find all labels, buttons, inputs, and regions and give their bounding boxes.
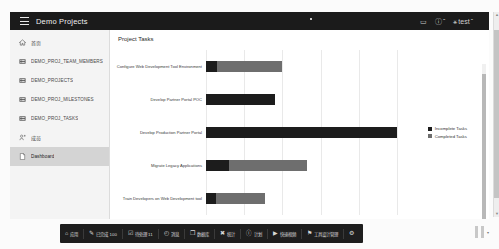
- scroll-down-icon[interactable]: ▼: [494, 211, 499, 217]
- clock-icon: ◴: [164, 231, 169, 237]
- window-scrollbar[interactable]: ▲ ▼: [493, 12, 499, 217]
- chat-icon[interactable]: ▭: [420, 18, 427, 25]
- taskbar-item-label: 统计: [227, 231, 235, 237]
- app-header: Demo Projects ▭ ⓘ ˇ ⚹ test ˇ: [10, 12, 489, 30]
- legend-item-completed[interactable]: Completed Tasks: [428, 134, 467, 139]
- chart-bar-segment-incomplete[interactable]: [206, 94, 275, 105]
- edit-icon: ☑: [128, 231, 133, 237]
- chart-bar-segment-completed[interactable]: [217, 61, 282, 72]
- chart-bar-row: Train Developers on Web Development tool: [206, 182, 397, 215]
- account-label: test: [458, 18, 469, 25]
- taskbar-item-edit[interactable]: ☑待处理 11: [123, 231, 158, 237]
- scroll-up-icon[interactable]: ▲: [494, 12, 499, 18]
- inner-scrollbar-thumb[interactable]: [482, 74, 486, 219]
- sidebar-item-label: DEMO_PROJ_TASKS: [31, 116, 78, 121]
- legend-swatch-icon: [428, 127, 432, 131]
- chart-bar-segment-incomplete[interactable]: [206, 160, 229, 171]
- info-icon: ⓘ: [246, 231, 252, 237]
- people-icon: ✎: [89, 231, 94, 237]
- taskbar-item-gear[interactable]: ⚙: [344, 231, 359, 237]
- sidebar-item-demo-projects[interactable]: DEMO_PROJECTS: [10, 71, 109, 90]
- taskbar-item-info[interactable]: ⓘ计划: [241, 231, 267, 237]
- chart-bar-segment-completed[interactable]: [229, 160, 307, 171]
- sidebar-item-label: 成员: [31, 134, 41, 141]
- gear-icon: ⚙: [349, 231, 354, 237]
- chart-bar[interactable]: [206, 193, 265, 204]
- chart-bar[interactable]: [206, 61, 282, 72]
- screen: Demo Projects ▭ ⓘ ˇ ⚹ test ˇ 首页: [0, 0, 499, 249]
- sidebar-item-dashboard[interactable]: Dashboard: [10, 147, 109, 166]
- hamburger-icon[interactable]: [20, 17, 29, 25]
- video-icon: ▶: [273, 231, 278, 237]
- taskbar-item-people[interactable]: ✎已完成 100: [84, 231, 122, 237]
- chart-category-label: Develop Partner Portal POC: [114, 97, 206, 103]
- legend-swatch-icon: [428, 134, 432, 138]
- chat-glyph: ▭: [420, 18, 427, 25]
- sidebar-item-label: 首页: [31, 39, 41, 46]
- account-icon[interactable]: ⚹ test ˇ: [453, 18, 473, 25]
- table-icon: [18, 77, 26, 85]
- chart-bar-segment-incomplete[interactable]: [206, 127, 397, 138]
- sidebar-item-label: Dashboard: [31, 154, 54, 159]
- chart-bar[interactable]: [206, 127, 397, 138]
- help-glyph: ⓘ: [435, 18, 442, 25]
- chart-bar[interactable]: [206, 160, 307, 171]
- table-icon: [18, 96, 26, 104]
- help-icon[interactable]: ⓘ ˇ: [435, 18, 445, 25]
- chart-bar[interactable]: [206, 94, 275, 105]
- chart-category-label: Configure Web Development Tool Environme…: [114, 64, 206, 70]
- chart-bar-row: Develop Production Partner Portal: [206, 116, 397, 149]
- taskbar-item-label: 快速视频: [280, 231, 296, 237]
- window-scrollbar-thumb[interactable]: [494, 30, 499, 198]
- chart-bar-segment-incomplete[interactable]: [206, 61, 217, 72]
- project-tasks-chart: Configure Web Development Tool Environme…: [110, 48, 475, 219]
- taskbar-item-label: 工具设计管理: [314, 231, 338, 237]
- content-panel: Project Tasks Configure Web Development …: [110, 30, 489, 219]
- home-icon: [18, 39, 26, 47]
- sidebar: 首页 DEMO_PROJ_TEAM_MEMBERS DEMO_PROJECTS …: [10, 30, 110, 219]
- sidebar-item-members[interactable]: 成员: [10, 128, 109, 147]
- sidebar-item-label: DEMO_PROJ_TEAM_MEMBERS: [31, 59, 103, 64]
- chart-category-label: Migrate Legacy Applications: [114, 163, 206, 169]
- sidebar-item-demo-proj-tasks[interactable]: DEMO_PROJ_TASKS: [10, 109, 109, 128]
- taskbar-item-label: 应用: [70, 231, 78, 237]
- tray-expand-icon[interactable]: ▾: [487, 230, 489, 235]
- chart-icon: ✖: [220, 231, 225, 237]
- taskbar-item-pin[interactable]: ⚑工具设计管理: [302, 231, 343, 237]
- pin-icon: ⚑: [307, 231, 312, 237]
- chart-category-label: Train Developers on Web Development tool: [114, 196, 206, 202]
- taskbar-item-clock[interactable]: ◴消息: [159, 231, 184, 237]
- window-body: 首页 DEMO_PROJ_TEAM_MEMBERS DEMO_PROJECTS …: [10, 30, 489, 219]
- chart-bar-segment-incomplete[interactable]: [206, 193, 216, 204]
- sidebar-item-home[interactable]: 首页: [10, 33, 109, 52]
- sidebar-item-label: DEMO_PROJ_MILESTONES: [31, 97, 94, 102]
- sidebar-item-demo-proj-team-members[interactable]: DEMO_PROJ_TEAM_MEMBERS: [10, 52, 109, 71]
- taskbar-item-chart[interactable]: ✖统计: [215, 231, 240, 237]
- window-icon: ❐: [190, 231, 195, 237]
- chart-legend: Incomplete Tasks Completed Tasks: [428, 126, 467, 141]
- taskbar-item-label: 消息: [171, 231, 179, 237]
- legend-label: Incomplete Tasks: [435, 126, 467, 131]
- table-icon: [18, 58, 26, 66]
- chart-category-label: Develop Production Partner Portal: [114, 130, 206, 136]
- taskbar-item-video[interactable]: ▶快速视频: [268, 231, 301, 237]
- taskbar-item-label: 计划: [254, 231, 262, 237]
- sidebar-item-demo-proj-milestones[interactable]: DEMO_PROJ_MILESTONES: [10, 90, 109, 109]
- tray-bar-icon[interactable]: [475, 226, 478, 238]
- tray-bar-icon[interactable]: [481, 226, 484, 238]
- sidebar-item-label: DEMO_PROJECTS: [31, 78, 73, 83]
- taskbar-item-window[interactable]: ❐数据库: [185, 231, 214, 237]
- page-icon: [18, 153, 26, 161]
- taskbar-item-search[interactable]: ⌂应用: [60, 231, 83, 237]
- table-icon: [18, 115, 26, 123]
- chart-bar-rows: Configure Web Development Tool Environme…: [206, 50, 397, 215]
- header-indicator-dot: [310, 18, 312, 20]
- chart-bar-segment-completed[interactable]: [216, 193, 266, 204]
- legend-item-incomplete[interactable]: Incomplete Tasks: [428, 126, 467, 131]
- search-icon: ⌂: [65, 231, 68, 237]
- legend-label: Completed Tasks: [435, 134, 467, 139]
- taskbar-item-label: 已完成 100: [96, 231, 117, 237]
- chart-plot-area: Configure Web Development Tool Environme…: [206, 50, 397, 215]
- chart-bar-row: Develop Partner Portal POC: [206, 83, 397, 116]
- inner-scrollbar[interactable]: [482, 64, 486, 219]
